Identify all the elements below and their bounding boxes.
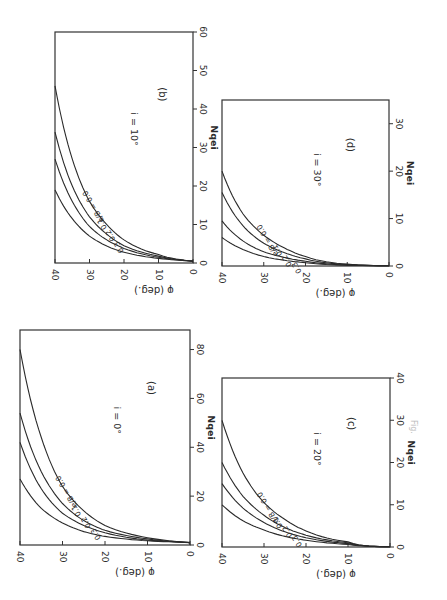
- figure-canvas: 0102030400102030405060φ (deg.)Nqei(b)i =…: [0, 0, 447, 600]
- y-tick-label: 0: [395, 544, 405, 550]
- panel-label: (a): [146, 381, 157, 395]
- y-tick-label: 20: [394, 165, 404, 177]
- y-tick-label: 60: [198, 26, 208, 38]
- y-tick-label: 20: [198, 180, 208, 192]
- x-tick-label: 30: [58, 551, 68, 563]
- y-axis-label: Nqei: [206, 415, 217, 439]
- y-axis-label: Nqei: [405, 161, 416, 185]
- inclination-annotation: i = 20°: [312, 432, 323, 465]
- x-axis-label: φ (deg.): [316, 569, 356, 580]
- curve-0-0: [55, 86, 193, 261]
- curve-0-1: [222, 463, 390, 547]
- x-tick-label: 40: [15, 551, 25, 563]
- y-tick-label: 30: [394, 118, 404, 130]
- plot-frame: [222, 378, 390, 547]
- x-tick-label: 20: [119, 269, 129, 281]
- y-tick-label: 10: [198, 219, 208, 231]
- x-tick-label: 10: [342, 272, 352, 284]
- curve-label: 0.3: [112, 240, 126, 255]
- x-tick-label: 0: [188, 269, 198, 275]
- y-tick-label: 30: [395, 415, 405, 427]
- curve-0-1: [222, 193, 389, 266]
- x-tick-label: 20: [301, 272, 311, 284]
- x-axis-label: φ (deg.): [316, 288, 356, 299]
- inclination-annotation: i = 10°: [129, 112, 140, 145]
- y-tick-label: 0: [198, 260, 208, 266]
- x-tick-label: 0: [185, 551, 195, 557]
- plot-frame: [222, 100, 389, 266]
- x-tick-label: 40: [217, 272, 227, 284]
- y-axis-label: Nqei: [209, 125, 220, 149]
- y-tick-label: 0: [195, 542, 205, 548]
- x-tick-label: 40: [50, 269, 60, 281]
- chart-panel-c: 010203040010203040φ (deg.)Nqei(c)i = 20°…: [217, 372, 417, 580]
- y-tick-label: 80: [195, 344, 205, 356]
- y-tick-label: 0: [394, 263, 404, 269]
- y-tick-label: 40: [195, 442, 205, 454]
- curve-0-0: [222, 420, 390, 547]
- curve-label: 0.2: [103, 228, 117, 243]
- figure-caption: Fig.: [408, 420, 418, 580]
- curve-0-2: [222, 484, 390, 547]
- inclination-annotation: i = 30°: [312, 153, 323, 186]
- x-axis-label: φ (deg.): [115, 567, 155, 578]
- y-tick-label: 40: [198, 103, 208, 115]
- y-tick-label: 30: [198, 142, 208, 154]
- panel-label: (d): [345, 138, 356, 152]
- x-tick-label: 0: [384, 272, 394, 278]
- x-tick-label: 10: [143, 551, 153, 563]
- curve-0-1: [20, 413, 190, 542]
- panel-label: (c): [346, 417, 357, 430]
- x-tick-label: 30: [259, 553, 269, 565]
- panel-label: (b): [157, 87, 168, 101]
- x-tick-label: 0: [385, 553, 395, 559]
- x-tick-label: 20: [100, 551, 110, 563]
- y-tick-label: 20: [395, 457, 405, 469]
- x-axis-label: φ (deg.): [134, 285, 174, 296]
- x-tick-label: 40: [217, 553, 227, 565]
- curve-0-1: [55, 132, 193, 261]
- plot-frame: [20, 330, 190, 545]
- curve-0-0: [20, 350, 190, 543]
- chart-panels: 0102030400102030405060φ (deg.)Nqei(b)i =…: [15, 26, 417, 580]
- x-tick-label: 30: [85, 269, 95, 281]
- chart-panel-a: 010203040020406080φ (deg.)Nqei(a)i = 0°e…: [15, 330, 217, 578]
- inclination-annotation: i = 0°: [112, 407, 123, 434]
- x-tick-label: 10: [154, 269, 164, 281]
- chart-panel-b: 0102030400102030405060φ (deg.)Nqei(b)i =…: [50, 26, 220, 296]
- x-tick-label: 30: [259, 272, 269, 284]
- x-tick-label: 10: [343, 553, 353, 565]
- plot-frame: [55, 32, 193, 263]
- x-tick-label: 20: [301, 553, 311, 565]
- curve-0-2: [20, 442, 190, 542]
- y-tick-label: 60: [195, 393, 205, 405]
- y-tick-label: 10: [394, 213, 404, 225]
- y-tick-label: 40: [395, 372, 405, 384]
- y-tick-label: 20: [195, 490, 205, 502]
- chart-panel-d: 0102030400102030φ (deg.)Nqei(d)i = 30°e/…: [217, 100, 416, 299]
- curve-label: e/B = 0.0: [54, 474, 80, 509]
- y-tick-label: 10: [395, 499, 405, 511]
- y-tick-label: 50: [198, 65, 208, 77]
